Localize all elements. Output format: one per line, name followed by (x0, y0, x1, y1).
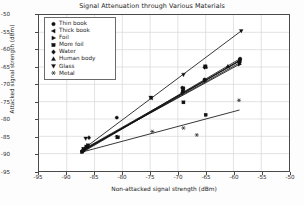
legend-label: More foil (59, 41, 84, 48)
legend-item-metal[interactable]: Metal (47, 70, 112, 77)
legend-label: Water (59, 48, 76, 55)
y-tick-label: -95 (0, 169, 10, 175)
data-point (181, 126, 185, 130)
x-tick-mark (94, 172, 95, 175)
x-tick-mark (234, 172, 235, 175)
y-tick-mark (35, 172, 38, 173)
y-tick-label: -85 (0, 134, 10, 140)
x-tick-mark (38, 172, 39, 175)
x-tick-mark (290, 172, 291, 175)
legend-label: Foil (59, 34, 69, 41)
data-point (84, 137, 88, 141)
legend-label: Glass (59, 63, 74, 70)
y-tick-label: -55 (0, 29, 10, 35)
chart-title: Signal Attenuation through Various Mater… (0, 2, 304, 10)
legend-label: Human body (59, 55, 95, 62)
data-point (237, 98, 241, 102)
data-point (195, 133, 199, 137)
x-tick-mark (178, 172, 179, 175)
asterisk-marker-icon (47, 69, 59, 77)
data-point (182, 101, 185, 104)
fit-line (81, 110, 239, 152)
y-tick-label: -90 (0, 151, 10, 157)
y-tick-label: -50 (0, 11, 10, 17)
chart-legend: Thin bookThick bookFoilMore foilWaterHum… (44, 17, 116, 80)
chart-figure: Signal Attenuation through Various Mater… (0, 0, 304, 205)
x-tick-mark (262, 172, 263, 175)
y-tick-label: -70 (0, 81, 10, 87)
data-point (87, 136, 91, 140)
x-tick-mark (122, 172, 123, 175)
data-point (115, 116, 118, 119)
x-tick-mark (150, 172, 151, 175)
y-tick-label: -65 (0, 64, 10, 70)
data-point (239, 29, 243, 33)
x-tick-mark (66, 172, 67, 175)
x-axis-label: Non-attacked signal strength (dBm) (38, 186, 290, 192)
x-tick-mark (206, 172, 207, 175)
y-tick-label: -75 (0, 99, 10, 105)
data-point (204, 113, 207, 116)
legend-label: Metal (59, 70, 75, 77)
legend-label: Thin book (59, 20, 87, 27)
y-tick-label: -60 (0, 46, 10, 52)
legend-label: Thick book (59, 27, 90, 34)
y-tick-label: -80 (0, 116, 10, 122)
